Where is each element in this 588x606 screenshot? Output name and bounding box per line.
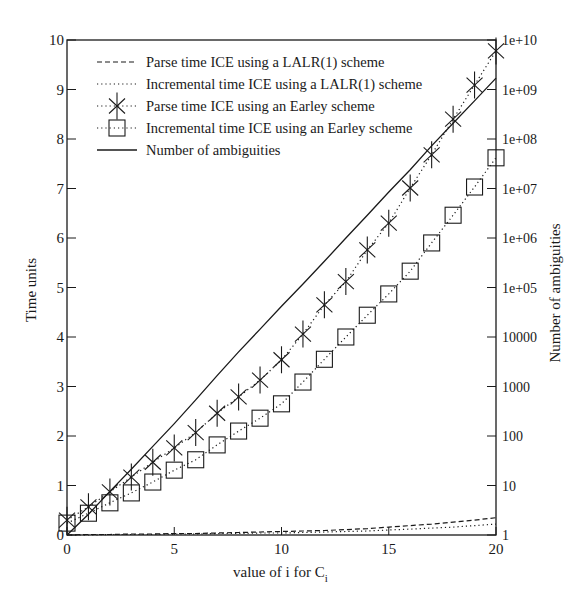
star-marker xyxy=(209,400,225,427)
legend-item: Number of ambiguities xyxy=(97,142,281,158)
y2-tick-label: 10000 xyxy=(502,330,537,345)
star-marker xyxy=(316,291,332,318)
y2-tick-label: 1e+07 xyxy=(502,182,537,197)
legend-item: Parse time ICE using a LALR(1) scheme xyxy=(97,54,384,71)
square-marker xyxy=(231,423,247,439)
y-tick-label: 8 xyxy=(57,131,65,147)
y-tick-label: 0 xyxy=(57,527,65,543)
y-tick-label: 3 xyxy=(57,379,65,395)
y-axis-right-ticks: 1101001000100001e+051e+061e+071e+081e+09… xyxy=(487,33,537,543)
y-tick-label: 9 xyxy=(57,82,65,98)
plot-frame xyxy=(67,40,496,535)
star-marker xyxy=(359,236,375,263)
x-tick-label: 20 xyxy=(489,541,504,557)
y-tick-label: 6 xyxy=(57,230,65,246)
chart: 05101520 012345678910 1101001000100001e+… xyxy=(0,0,588,606)
y-tick-label: 5 xyxy=(57,280,65,296)
star-marker xyxy=(338,268,354,295)
square-marker xyxy=(295,374,311,390)
legend-label: Parse time ICE using an Earley scheme xyxy=(146,98,375,114)
square-marker xyxy=(338,329,354,345)
y-axis-left-ticks: 012345678910 xyxy=(49,32,76,543)
series-3 xyxy=(59,150,504,531)
y2-tick-label: 1e+10 xyxy=(502,33,537,48)
legend-item: Incremental time ICE using an Earley sch… xyxy=(97,120,413,136)
y-tick-label: 7 xyxy=(57,181,65,197)
y2-tick-label: 1e+08 xyxy=(502,132,537,147)
y-tick-label: 2 xyxy=(57,428,65,444)
star-marker xyxy=(166,434,182,461)
y2-tick-label: 100 xyxy=(502,429,523,444)
legend-item: Parse time ICE using an Earley scheme xyxy=(97,93,375,120)
y2-tick-label: 1e+05 xyxy=(502,281,537,296)
legend-item: Incremental time ICE using a LALR(1) sch… xyxy=(97,76,422,93)
x-tick-label: 15 xyxy=(381,541,396,557)
y-axis-left-label: Time units xyxy=(23,258,39,322)
square-marker xyxy=(166,462,182,478)
x-tick-label: 0 xyxy=(63,541,71,557)
x-axis-label-subscript: i xyxy=(325,572,328,584)
star-marker xyxy=(231,383,247,410)
y2-tick-label: 1e+06 xyxy=(502,231,537,246)
y-tick-label: 4 xyxy=(57,329,65,345)
square-marker xyxy=(402,263,418,279)
star-marker xyxy=(274,346,290,373)
y2-tick-label: 1 xyxy=(502,528,509,543)
square-marker xyxy=(145,474,161,490)
star-marker xyxy=(252,367,268,394)
square-marker xyxy=(252,410,268,426)
legend: Parse time ICE using a LALR(1) schemeInc… xyxy=(97,54,422,158)
square-marker xyxy=(274,396,290,412)
legend-label: Incremental time ICE using an Earley sch… xyxy=(146,120,413,136)
legend-label: Number of ambiguities xyxy=(146,142,281,158)
x-axis-label: value of i for Ci xyxy=(233,564,328,584)
square-marker xyxy=(209,437,225,453)
star-marker xyxy=(188,419,204,446)
star-marker xyxy=(381,210,397,237)
y2-tick-label: 1e+09 xyxy=(502,83,537,98)
y-tick-label: 10 xyxy=(49,32,64,48)
star-marker xyxy=(123,464,139,491)
y-axis-right-label: Number of ambiguities xyxy=(547,223,563,362)
legend-label: Incremental time ICE using a LALR(1) sch… xyxy=(146,76,422,93)
square-marker xyxy=(467,179,483,195)
x-tick-label: 10 xyxy=(274,541,289,557)
square-marker xyxy=(445,207,461,223)
y-tick-label: 1 xyxy=(57,478,65,494)
x-tick-label: 5 xyxy=(171,541,179,557)
y2-tick-label: 10 xyxy=(502,479,516,494)
star-marker xyxy=(295,321,311,348)
y2-tick-label: 1000 xyxy=(502,380,530,395)
star-marker xyxy=(402,175,418,202)
legend-label: Parse time ICE using a LALR(1) scheme xyxy=(146,54,384,71)
